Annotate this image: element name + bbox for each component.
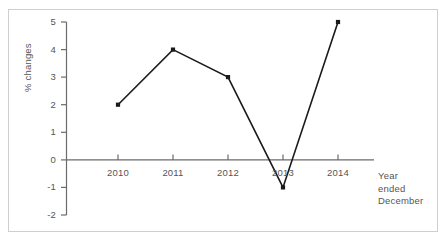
x-axis-title: Year ended December	[378, 170, 423, 208]
x-tick-label-2012: 2012	[214, 167, 242, 178]
y-tick-label-3: 3	[38, 71, 56, 82]
y-tick-label-minus-2: -2	[34, 209, 56, 220]
data-series-line	[118, 22, 338, 187]
data-point-2011	[171, 48, 175, 52]
y-tick-label-2: 2	[38, 99, 56, 110]
y-axis-title: % changes	[22, 12, 33, 92]
y-tick-label-4: 4	[38, 44, 56, 55]
y-tick-label-5: 5	[38, 16, 56, 27]
x-tick-label-2010: 2010	[104, 167, 132, 178]
x-axis-title-line-2: ended	[378, 183, 423, 196]
x-axis-title-line-3: December	[378, 195, 423, 208]
y-tick-label-1: 1	[38, 126, 56, 137]
x-tick-label-2014: 2014	[324, 167, 352, 178]
x-axis-title-line-1: Year	[378, 170, 423, 183]
data-point-2014	[336, 20, 340, 24]
x-tick-label-2011: 2011	[159, 167, 187, 178]
data-point-2013	[281, 185, 285, 189]
x-tick-label-2013: 2013	[269, 167, 297, 178]
data-point-2012	[226, 75, 230, 79]
data-point-2010	[116, 103, 120, 107]
y-tick-label-minus-1: -1	[34, 181, 56, 192]
y-tick-label-0: 0	[38, 154, 56, 165]
chart-figure: 5 4 3 2 1 0 -1 -2 2010 2011 2012 2013 20…	[0, 0, 448, 243]
